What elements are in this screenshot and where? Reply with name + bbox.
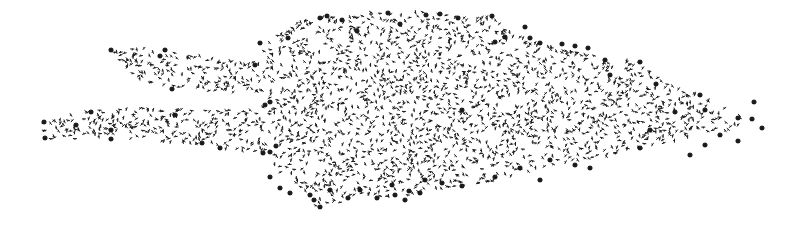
graph-node (343, 119, 345, 122)
graph-node (664, 86, 666, 88)
graph-node (319, 197, 320, 200)
graph-node (338, 45, 340, 48)
graph-node (515, 169, 518, 170)
graph-node (407, 101, 410, 103)
graph-node (49, 139, 52, 140)
graph-node (370, 41, 372, 44)
graph-node (460, 118, 463, 119)
graph-node (375, 100, 376, 103)
graph-node (365, 91, 368, 93)
graph-node (443, 94, 445, 97)
graph-node (543, 166, 546, 168)
graph-node (479, 51, 481, 54)
graph-node (527, 170, 529, 172)
graph-node (286, 136, 289, 137)
graph-node (283, 115, 284, 118)
graph-node (301, 43, 303, 46)
graph-node (531, 112, 532, 115)
graph-node (379, 133, 381, 135)
graph-node (516, 58, 519, 59)
graph-node (150, 114, 152, 117)
graph-node (304, 19, 306, 22)
graph-node (395, 127, 396, 130)
graph-node (357, 92, 360, 94)
graph-node (363, 98, 365, 101)
graph-node (294, 147, 297, 149)
graph-node (560, 101, 563, 102)
graph-node (518, 130, 519, 133)
graph-node (298, 25, 301, 27)
graph-node (297, 45, 299, 48)
graph-node (423, 187, 425, 189)
graph-node (289, 119, 290, 122)
graph-node (302, 82, 305, 84)
graph-node (466, 46, 468, 49)
graph-node (112, 132, 115, 134)
graph-node (486, 141, 487, 144)
graph-node (281, 129, 283, 132)
graph-node (433, 175, 434, 178)
graph-node (360, 42, 363, 44)
graph-node (480, 17, 482, 20)
graph-node (329, 132, 332, 133)
graph-node (566, 77, 568, 80)
small-nodes-layer (42, 11, 741, 207)
graph-node (281, 111, 282, 114)
graph-node (639, 134, 640, 137)
graph-node (374, 65, 377, 67)
graph-node (446, 77, 449, 79)
graph-node (510, 70, 513, 72)
graph-node (462, 100, 464, 103)
graph-node (569, 66, 572, 67)
graph-node (401, 51, 404, 53)
graph-node (372, 163, 375, 164)
graph-node (527, 52, 529, 54)
graph-node (476, 20, 479, 22)
graph-node (364, 186, 367, 187)
graph-node (245, 119, 246, 122)
graph-node (321, 76, 323, 79)
graph-node (406, 195, 409, 196)
graph-node (485, 103, 488, 104)
graph-node (396, 164, 398, 167)
graph-node (423, 40, 426, 42)
graph-node (319, 189, 322, 190)
graph-node (337, 107, 338, 110)
hub-node-star (267, 149, 272, 154)
graph-node (200, 81, 203, 83)
graph-node (309, 89, 311, 92)
graph-node (409, 143, 410, 146)
graph-node (297, 85, 299, 88)
graph-node (338, 28, 340, 30)
graph-node (119, 54, 122, 56)
graph-node (419, 75, 421, 78)
graph-node (607, 62, 610, 64)
graph-node (618, 106, 621, 107)
graph-node (631, 137, 633, 140)
graph-node (498, 23, 500, 25)
graph-node (432, 29, 433, 32)
hub-node-star (88, 109, 93, 114)
hub-node-star (572, 43, 577, 48)
graph-node (271, 81, 274, 83)
graph-node (381, 175, 382, 178)
graph-node (618, 131, 620, 133)
graph-node (310, 129, 313, 131)
graph-node (566, 92, 568, 95)
graph-node (543, 96, 545, 99)
graph-node (490, 118, 493, 120)
graph-node (454, 155, 456, 157)
graph-node (123, 52, 126, 53)
graph-node (369, 188, 370, 191)
graph-node (172, 71, 175, 73)
graph-node (144, 71, 145, 74)
graph-node (216, 84, 219, 86)
graph-node (656, 77, 659, 79)
graph-node (433, 165, 436, 167)
graph-node (428, 169, 431, 170)
graph-node (442, 66, 444, 68)
graph-node (153, 67, 156, 68)
graph-node (368, 85, 371, 86)
graph-node (388, 39, 391, 41)
graph-node (441, 63, 444, 65)
